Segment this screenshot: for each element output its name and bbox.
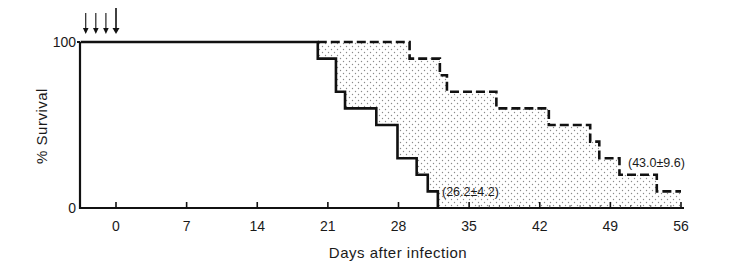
- annotation-control-mean: (26.2±4.2): [442, 185, 499, 199]
- y-axis-title: % Survival: [33, 88, 50, 164]
- x-tick-label: 21: [320, 218, 336, 234]
- treatment-arrow-head: [103, 28, 109, 34]
- treatment-arrow-head: [93, 28, 99, 34]
- x-tick-label: 28: [391, 218, 407, 234]
- x-tick-label: 7: [183, 218, 191, 234]
- treatment-arrow-head: [113, 28, 120, 34]
- stipple-fill: [318, 42, 681, 208]
- y-tick-100: 100: [53, 34, 77, 50]
- survival-chart: 100 0 0714212835424956 % Survival Days a…: [0, 0, 739, 280]
- treatment-arrow-head: [83, 28, 89, 34]
- x-tick-label: 49: [603, 218, 619, 234]
- x-tick-label: 42: [532, 218, 548, 234]
- x-tick-labels: 0714212835424956: [112, 218, 689, 234]
- x-axis-title: Days after infection: [329, 244, 467, 261]
- x-tick-label: 14: [249, 218, 265, 234]
- x-tick-label: 35: [461, 218, 477, 234]
- treatment-arrows: [83, 8, 120, 34]
- annotation-treated-mean: (43.0±9.6): [628, 156, 685, 170]
- y-tick-0: 0: [68, 200, 76, 216]
- x-tick-label: 0: [112, 218, 120, 234]
- x-tick-label: 56: [673, 218, 689, 234]
- stippled-difference-area: [318, 42, 681, 208]
